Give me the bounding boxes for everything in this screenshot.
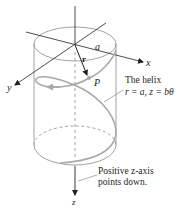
helix-curve-loop bbox=[36, 77, 116, 163]
y-axis-label: y bbox=[6, 82, 12, 93]
point-label-p: P bbox=[93, 77, 100, 88]
z-note-line2: points down. bbox=[98, 177, 147, 187]
helix-equation: r = a, z = bθ bbox=[125, 87, 174, 97]
helix-diagram: a x y r P The helix r = a, z = bθ Positi… bbox=[0, 0, 187, 208]
x-axis-label: x bbox=[145, 57, 151, 68]
point-p-dot bbox=[87, 76, 91, 80]
z-axis-label: z bbox=[71, 197, 76, 207]
z-note-line1: Positive z-axis bbox=[98, 166, 154, 176]
z-note-leader-line bbox=[78, 175, 97, 181]
radius-label-a: a bbox=[95, 41, 100, 52]
helix-title: The helix bbox=[125, 75, 161, 85]
vector-label-r: r bbox=[82, 54, 86, 64]
helix-leader-line bbox=[104, 90, 123, 102]
